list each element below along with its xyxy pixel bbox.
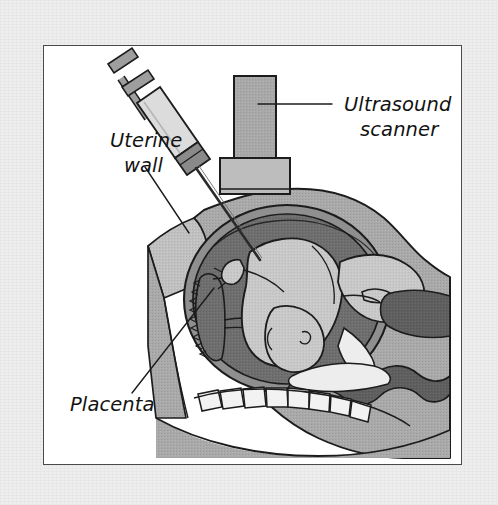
scanner-handle[interactable]: [234, 76, 276, 158]
label-ultrasound-scanner-line1: Ultrasound: [344, 93, 452, 116]
amniocentesis-illustration: Ultrasound scanner Uterine wall Placenta: [44, 46, 460, 463]
label-placenta: Placenta: [70, 393, 155, 416]
label-ultrasound-scanner-line2: scanner: [360, 118, 440, 141]
figure-frame: Ultrasound scanner Uterine wall Placenta: [43, 45, 462, 465]
label-uterine-wall-line1: Uterine: [110, 129, 182, 152]
label-placenta-line1: Placenta: [70, 393, 155, 416]
ultrasound-scanner[interactable]: [220, 76, 290, 194]
figure-page: Ultrasound scanner Uterine wall Placenta: [0, 0, 498, 505]
label-uterine-wall-line2: wall: [124, 154, 164, 177]
syringe-flange[interactable]: [122, 70, 154, 96]
label-ultrasound-scanner: Ultrasound scanner: [344, 93, 452, 141]
syringe-thumb-pad[interactable]: [108, 48, 138, 73]
